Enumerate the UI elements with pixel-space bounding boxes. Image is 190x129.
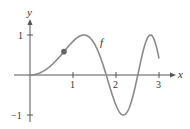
y-tick-label-1: 1 [18,30,23,41]
x-axis-arrow-icon [170,73,176,78]
x-axis-label: x [177,68,183,80]
x-tick-label-1: 1 [70,79,75,90]
marked-point [61,49,67,55]
y-tick-label-neg1: −1 [11,110,22,121]
x-tick-label-2: 2 [113,79,118,90]
y-axis-label: y [26,6,32,18]
x-tick-label-3: 3 [156,79,161,90]
chart: y x 1 2 3 1 −1 f [0,0,190,129]
y-axis-arrow-icon [28,19,33,25]
function-label: f [100,36,105,48]
